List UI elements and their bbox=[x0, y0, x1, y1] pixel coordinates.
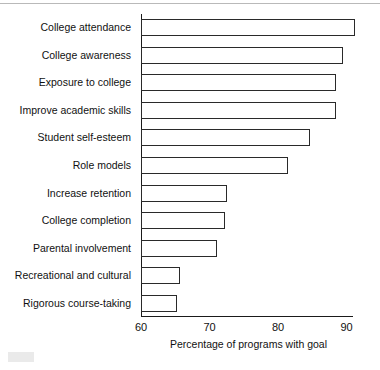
bar-5 bbox=[141, 129, 356, 146]
bar-rect bbox=[141, 240, 217, 257]
bar-2 bbox=[141, 47, 356, 64]
category-label: Parental involvement bbox=[0, 240, 136, 257]
bar-11 bbox=[141, 295, 356, 312]
bar-8 bbox=[141, 212, 356, 229]
bar-3 bbox=[141, 74, 356, 91]
category-label: Exposure to college bbox=[0, 74, 136, 91]
x-tick-label-60: 60 bbox=[121, 320, 161, 334]
category-label: Role models bbox=[0, 157, 136, 174]
bar-7 bbox=[141, 185, 356, 202]
x-axis-tick-labels: 60708090 bbox=[0, 320, 380, 336]
category-label: College attendance bbox=[0, 19, 136, 36]
category-label: College completion bbox=[0, 212, 136, 229]
category-label: College awareness bbox=[0, 47, 136, 64]
category-label: Recreational and cultural bbox=[0, 267, 136, 284]
bar-rect bbox=[141, 74, 336, 91]
x-tick-label-90: 90 bbox=[327, 320, 367, 334]
scan-smudge bbox=[8, 352, 34, 362]
bar-9 bbox=[141, 240, 356, 257]
bar-4 bbox=[141, 102, 356, 119]
x-axis-line bbox=[141, 316, 353, 317]
bar-rect bbox=[141, 185, 227, 202]
bar-rect bbox=[141, 212, 225, 229]
x-axis-title: Percentage of programs with goal bbox=[141, 338, 356, 350]
bar-rect bbox=[141, 267, 180, 284]
bar-rect bbox=[141, 129, 310, 146]
category-label: Increase retention bbox=[0, 185, 136, 202]
category-label: Student self-esteem bbox=[0, 129, 136, 146]
bar-rect bbox=[141, 157, 288, 174]
bar-rect bbox=[141, 102, 336, 119]
plot-area bbox=[141, 14, 356, 317]
bar-10 bbox=[141, 267, 356, 284]
x-tick-label-80: 80 bbox=[258, 320, 298, 334]
category-label: Rigorous course-taking bbox=[0, 295, 136, 312]
bar-rect bbox=[141, 19, 355, 36]
category-axis-labels: College attendanceCollege awarenessExpos… bbox=[0, 14, 136, 317]
bar-rect bbox=[141, 295, 177, 312]
bar-rect bbox=[141, 47, 343, 64]
bar-6 bbox=[141, 157, 356, 174]
horizontal-bar-chart: College attendanceCollege awarenessExpos… bbox=[0, 0, 380, 370]
x-tick-label-70: 70 bbox=[190, 320, 230, 334]
category-label: Improve academic skills bbox=[0, 102, 136, 119]
bar-1 bbox=[141, 19, 356, 36]
